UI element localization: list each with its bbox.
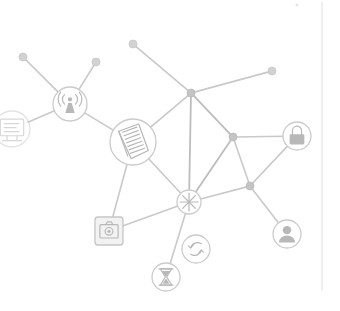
dot-node-layer — [19, 40, 276, 75]
edge-notebook-to-camera — [112, 162, 127, 218]
graph-node-camera[interactable]: Camera — [95, 217, 123, 245]
edge-antenna-to-notebook — [83, 112, 114, 131]
edge-dot-top-center-to-junction-top — [135, 46, 189, 92]
node-disc-hourglass — [152, 263, 180, 291]
edge-lock-to-junction-low — [252, 145, 289, 184]
junction-node-junction-top[interactable] — [187, 89, 195, 97]
network-graph-canvas: MonitorAntennaNotebookLockUserCameraHubR… — [0, 0, 340, 311]
edge-junction-low-to-user — [251, 188, 279, 224]
dot-node-dot-upper-mid[interactable] — [92, 58, 100, 66]
edge-junction-top-to-junction-right — [193, 95, 232, 136]
edge-junction-right-to-junction-low — [234, 139, 249, 183]
stray-speck — [295, 3, 298, 6]
edge-dot-upper-mid-to-antenna — [78, 64, 95, 91]
edge-junction-low-to-hub — [200, 187, 248, 200]
node-disc-monitor — [0, 111, 30, 147]
graph-node-user[interactable]: User — [273, 220, 301, 248]
graph-node-refresh[interactable]: Refresh — [182, 235, 210, 263]
edge-junction-right-to-lock — [235, 136, 284, 137]
node-disc-refresh — [182, 235, 210, 263]
edge-notebook-to-hub — [147, 157, 181, 193]
edge-dot-upper-left-to-antenna — [25, 59, 59, 93]
edge-hub-to-hourglass — [170, 213, 186, 265]
edge-junction-top-to-notebook — [149, 95, 189, 129]
dot-node-dot-upper-left[interactable] — [19, 53, 27, 61]
junction-node-junction-right[interactable] — [229, 133, 237, 141]
graph-node-lock[interactable]: Lock — [283, 122, 311, 150]
edge-camera-to-hub — [121, 206, 179, 227]
edge-layer — [25, 46, 288, 265]
graph-node-hub[interactable]: Hub — [177, 190, 201, 214]
graph-node-hourglass[interactable]: Hourglass — [152, 263, 180, 291]
icon-node-layer: MonitorAntennaNotebookLockUserCameraHubR… — [0, 87, 311, 291]
edge-monitor-to-antenna — [27, 110, 55, 122]
dot-node-dot-top-center[interactable] — [129, 40, 137, 48]
graph-node-notebook[interactable]: Notebook — [110, 119, 156, 165]
edge-dot-upper-right-to-junction-top — [193, 72, 269, 93]
junction-node-junction-low[interactable] — [246, 182, 254, 190]
graph-node-antenna[interactable]: Antenna — [53, 87, 87, 121]
edge-junction-top-to-hub — [189, 95, 191, 191]
asterisk-icon — [180, 193, 198, 211]
dot-node-dot-upper-right[interactable] — [268, 67, 276, 75]
edge-junction-right-to-hub — [195, 139, 231, 193]
junction-node-layer — [187, 89, 254, 190]
graph-node-monitor[interactable]: Monitor — [0, 111, 30, 147]
